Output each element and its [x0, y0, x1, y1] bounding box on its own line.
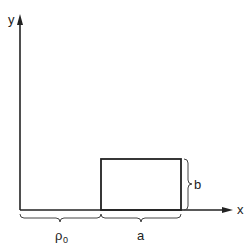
diagram-canvas: y x b ρ 0 a	[0, 0, 251, 250]
y-axis-label: y	[8, 12, 15, 27]
y-axis-arrow-icon	[17, 14, 23, 25]
width-brace	[101, 214, 181, 222]
height-brace	[184, 159, 192, 210]
x-axis-arrow-icon	[222, 207, 233, 213]
offset-label: ρ 0	[55, 228, 68, 245]
offset-brace	[20, 214, 101, 222]
x-axis-label: x	[237, 202, 244, 217]
svg-text:0: 0	[63, 235, 68, 245]
rectangle	[101, 159, 181, 210]
width-label: a	[137, 228, 145, 243]
y-axis	[17, 14, 23, 210]
height-label: b	[194, 177, 201, 192]
svg-text:ρ: ρ	[55, 228, 62, 243]
